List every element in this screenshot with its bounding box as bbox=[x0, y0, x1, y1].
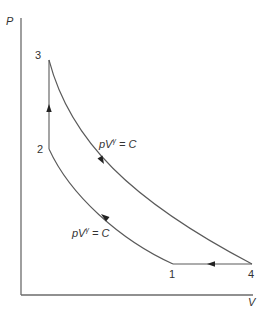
upper-adiabat-label: pVγ = C bbox=[98, 137, 137, 150]
arrow-left-icon bbox=[207, 261, 215, 266]
point-1-label: 1 bbox=[169, 268, 175, 280]
pv-diagram: P V 3 2 1 4 pVγ = C pVγ = C bbox=[0, 0, 272, 325]
point-2-label: 2 bbox=[37, 143, 43, 155]
p-axis-label: P bbox=[6, 15, 14, 27]
pv-diagram-canvas: P V 3 2 1 4 pVγ = C pVγ = C bbox=[0, 0, 272, 325]
arrow-down-right-icon bbox=[98, 156, 105, 165]
point-4-label: 4 bbox=[248, 268, 254, 280]
v-axis-label: V bbox=[248, 296, 257, 308]
lower-adiabat-label: pVγ = C bbox=[71, 226, 110, 239]
point-3-label: 3 bbox=[35, 49, 41, 61]
arrow-up-icon bbox=[46, 104, 51, 112]
